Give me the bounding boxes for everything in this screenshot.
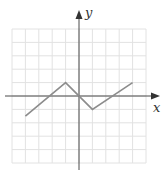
x-axis-arrow-icon xyxy=(151,93,160,100)
x-axis-label: x xyxy=(153,100,161,115)
graph: x y xyxy=(0,0,167,176)
y-axis xyxy=(76,10,83,170)
y-axis-label: y xyxy=(84,5,93,20)
y-axis-arrow-icon xyxy=(76,10,83,19)
